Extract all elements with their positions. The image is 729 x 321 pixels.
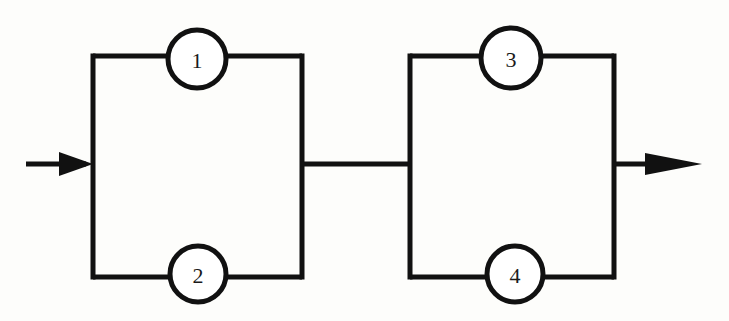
input-arrow-head bbox=[59, 152, 93, 176]
component-node-3[interactable]: 3 bbox=[481, 28, 541, 88]
component-node-1[interactable]: 1 bbox=[168, 30, 226, 88]
component-node-1-label: 1 bbox=[192, 48, 203, 73]
input-arrow bbox=[26, 152, 93, 176]
output-arrow-head bbox=[645, 153, 702, 175]
component-node-4-label: 4 bbox=[510, 263, 521, 288]
component-node-2-label: 2 bbox=[193, 263, 204, 288]
reliability-block-diagram: 1 2 3 4 bbox=[0, 0, 729, 321]
diagram-canvas: 1 2 3 4 bbox=[0, 0, 729, 321]
component-node-3-label: 3 bbox=[506, 47, 517, 72]
component-node-4[interactable]: 4 bbox=[487, 246, 543, 302]
component-node-2[interactable]: 2 bbox=[170, 246, 226, 302]
output-arrow bbox=[614, 153, 702, 175]
